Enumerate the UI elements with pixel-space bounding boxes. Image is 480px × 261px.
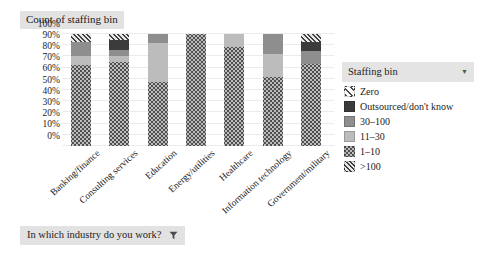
- legend-item-label: 11–30: [360, 131, 385, 142]
- legend-swatch-outsourced: [344, 101, 355, 112]
- bar-healthcare[interactable]: [224, 34, 244, 146]
- bar-segment-b1_10[interactable]: [301, 64, 321, 146]
- bar-segment-b100plus[interactable]: [71, 34, 91, 42]
- staffing-bin-dashboard: Count of staffing bin 0%10%20%30%40%50%6…: [0, 0, 480, 261]
- y-axis-tick: 100%: [38, 20, 60, 30]
- y-axis-tick: 90%: [43, 31, 60, 41]
- legend-item-zero[interactable]: Zero: [342, 86, 474, 97]
- legend-swatch-zero: [344, 86, 355, 97]
- x-axis-label: Education: [143, 148, 178, 181]
- bar-energy-utilities[interactable]: [186, 34, 206, 146]
- y-axis-tick: 50%: [43, 76, 60, 86]
- bar-segment-b1_10[interactable]: [109, 62, 129, 146]
- legend-item-label: Zero: [360, 86, 379, 97]
- x-axis: Banking/financeConsulting servicesEducat…: [62, 148, 352, 212]
- y-axis-tick: 60%: [43, 65, 60, 75]
- legend-swatch-b100plus: [344, 161, 355, 172]
- bar-segment-b11_30[interactable]: [224, 34, 244, 47]
- legend-item-b30_100[interactable]: 30–100: [342, 116, 474, 127]
- bar-segment-b1_10[interactable]: [71, 65, 91, 146]
- x-axis-label: Information technology: [220, 148, 294, 216]
- y-axis-tick: 20%: [43, 109, 60, 119]
- chevron-down-icon: ▼: [461, 65, 468, 79]
- legend-swatch-b11_30: [344, 131, 355, 142]
- bar-segment-b30_100[interactable]: [263, 34, 283, 54]
- bar-segment-b30_100[interactable]: [71, 42, 91, 57]
- bar-segment-b100plus[interactable]: [301, 34, 321, 42]
- legend-item-label: 30–100: [360, 116, 390, 127]
- bar-segment-b30_100[interactable]: [301, 51, 321, 64]
- filter-bar: In which industry do you work?: [20, 224, 185, 245]
- bar-segment-b1_10[interactable]: [148, 82, 168, 146]
- legend-header-dropdown[interactable]: Staffing bin ▼: [342, 62, 474, 82]
- legend-item-list: ZeroOutsourced/don't know30–10011–301–10…: [342, 86, 474, 172]
- legend: Staffing bin ▼ ZeroOutsourced/don't know…: [342, 62, 474, 172]
- legend-item-label: 1–10: [360, 146, 380, 157]
- y-axis-tick: 40%: [43, 87, 60, 97]
- legend-title: Staffing bin: [348, 65, 398, 79]
- x-axis-label: Healthcare: [218, 148, 255, 183]
- y-axis-tick: 70%: [43, 53, 60, 63]
- y-axis-tick: 0%: [47, 132, 60, 142]
- bar-segment-outsourced[interactable]: [301, 42, 321, 51]
- bar-consulting-services[interactable]: [109, 34, 129, 146]
- legend-item-b100plus[interactable]: >100: [342, 161, 474, 172]
- legend-item-outsourced[interactable]: Outsourced/don't know: [342, 101, 474, 112]
- bar-segment-b11_30[interactable]: [71, 56, 91, 65]
- filter-funnel-icon[interactable]: [169, 231, 178, 240]
- industry-filter-label: In which industry do you work?: [27, 229, 161, 241]
- legend-item-b11_30[interactable]: 11–30: [342, 131, 474, 142]
- bar-segment-b30_100[interactable]: [109, 50, 129, 57]
- bar-information-technology[interactable]: [263, 34, 283, 146]
- bar-banking-finance[interactable]: [71, 34, 91, 146]
- legend-item-b1_10[interactable]: 1–10: [342, 146, 474, 157]
- bar-segment-b30_100[interactable]: [148, 34, 168, 43]
- bar-segment-b1_10[interactable]: [263, 77, 283, 146]
- legend-item-label: Outsourced/don't know: [360, 101, 453, 112]
- y-axis: 0%10%20%30%40%50%60%70%80%90%100%: [14, 34, 60, 146]
- industry-filter-button[interactable]: In which industry do you work?: [20, 226, 185, 245]
- y-axis-tick: 80%: [43, 42, 60, 52]
- bar-segment-b11_30[interactable]: [263, 54, 283, 76]
- bar-segment-b1_10[interactable]: [186, 34, 206, 146]
- bar-segment-outsourced[interactable]: [109, 40, 129, 50]
- bar-segment-b11_30[interactable]: [148, 43, 168, 82]
- bar-government-military[interactable]: [301, 34, 321, 146]
- legend-item-label: >100: [360, 161, 381, 172]
- bar-segment-b1_10[interactable]: [224, 47, 244, 146]
- legend-swatch-b30_100: [344, 116, 355, 127]
- chart-plot-area: [62, 34, 330, 146]
- page-title: Count of staffing bin: [20, 11, 124, 29]
- y-axis-tick: 30%: [43, 98, 60, 108]
- y-axis-tick: 10%: [43, 121, 60, 131]
- bar-education[interactable]: [148, 34, 168, 146]
- legend-swatch-b1_10: [344, 146, 355, 157]
